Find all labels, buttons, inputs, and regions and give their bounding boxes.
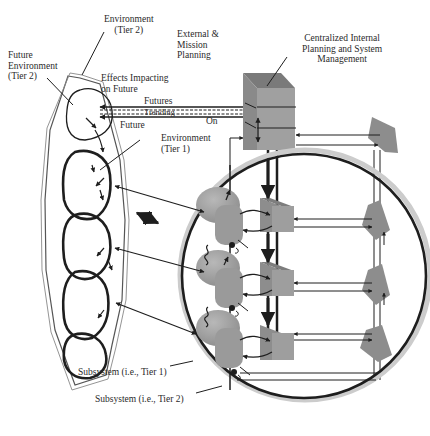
subsystem-cubes bbox=[260, 198, 294, 360]
subsystem-cylinders bbox=[196, 187, 243, 368]
cylinder-1 bbox=[196, 187, 243, 245]
label-future: Future bbox=[120, 120, 145, 131]
cube-2 bbox=[260, 262, 294, 296]
label-futures: Futures bbox=[144, 96, 173, 107]
futures-trending-arrows bbox=[100, 107, 252, 117]
cylinder-3 bbox=[196, 310, 243, 368]
label-on: On bbox=[206, 116, 218, 127]
label-subsystem-tier1: Subsystem (i.e., Tier 1) bbox=[78, 367, 167, 378]
environment-tier1-loops bbox=[63, 89, 112, 379]
label-environment-tier1: Environment (Tier 1) bbox=[161, 133, 211, 154]
system-diagram bbox=[0, 0, 430, 436]
label-external-mission-planning: External & Mission Planning bbox=[177, 29, 219, 61]
subsystem-pentagons bbox=[360, 200, 392, 362]
centralized-planning-cube[interactable] bbox=[243, 73, 296, 150]
cylinder-2 bbox=[196, 250, 243, 308]
label-trending: Trending bbox=[144, 107, 175, 118]
environment-tier2-boundary bbox=[41, 73, 129, 390]
internal-arrows bbox=[224, 160, 384, 380]
label-future-environment-tier2: Future Environment (Tier 2) bbox=[8, 50, 58, 82]
cube-pentagon-connectors bbox=[230, 135, 380, 380]
label-effects-impacting-future: Effects Impacting on Future bbox=[101, 73, 169, 94]
label-centralized-planning: Centralized Internal Planning and System… bbox=[302, 33, 382, 65]
cube-1 bbox=[260, 198, 294, 232]
label-environment-tier2: Environment (Tier 2) bbox=[104, 14, 154, 35]
label-subsystem-tier2: Subsystem (i.e., Tier 2) bbox=[95, 394, 184, 405]
